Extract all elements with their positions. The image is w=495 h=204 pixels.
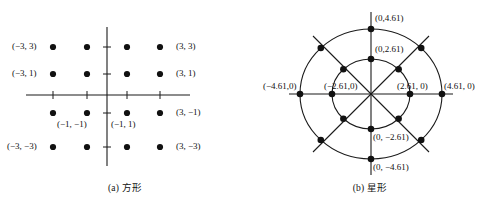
point-label-0-neg2p61: (0, −2.61) — [373, 133, 409, 142]
constellation-point — [124, 71, 130, 77]
constellation-point — [124, 110, 130, 116]
point-label-neg1-neg1: (−1, −1) — [57, 120, 87, 129]
constellation-point — [50, 110, 56, 116]
point-label-neg3-neg3: (−3, −3) — [7, 142, 37, 151]
constellation-point — [340, 66, 347, 73]
constellation-point — [124, 144, 130, 150]
constellation-point — [157, 144, 163, 150]
constellation-point — [418, 137, 425, 144]
constellation-point — [329, 91, 336, 98]
constellation-point — [50, 44, 56, 50]
constellation-point — [340, 115, 347, 122]
constellation-point — [84, 144, 90, 150]
constellation-point — [439, 91, 446, 98]
point-label-3-neg3: (3, −3) — [176, 142, 201, 151]
constellation-point — [318, 137, 325, 144]
point-label-neg3-1: (−3, 1) — [12, 69, 37, 78]
constellation-point — [395, 115, 402, 122]
constellation-point — [124, 44, 130, 50]
panel-square-caption: (a) 方形 — [0, 180, 250, 194]
point-label-4p61-0: (4.61, 0) — [444, 82, 475, 91]
constellation-point — [84, 71, 90, 77]
square-constellation-plot — [0, 0, 250, 175]
point-label-2p61-0: (2.61, 0) — [397, 82, 428, 91]
point-label-3-1: (3, 1) — [176, 69, 196, 78]
panel-square-constellation: (−3, 3) (3, 3) (−3, 1) (3, 1) (3, −1) (−… — [0, 0, 250, 204]
constellation-point — [50, 71, 56, 77]
panel-star-caption: (b) 星形 — [245, 180, 495, 194]
point-label-neg1-1: (−1, 1) — [111, 120, 136, 129]
constellation-point — [407, 91, 414, 98]
point-label-3-3: (3, 3) — [176, 42, 196, 51]
constellation-point — [418, 45, 425, 52]
point-label-neg3-3: (−3, 3) — [12, 42, 37, 51]
constellation-point — [84, 44, 90, 50]
constellation-point — [157, 71, 163, 77]
constellation-point — [395, 66, 402, 73]
point-label-neg4p61-0: (−4.61,0) — [263, 82, 297, 91]
figure-root: (−3, 3) (3, 3) (−3, 1) (3, 1) (3, −1) (−… — [0, 0, 495, 204]
point-label-3-neg1: (3, −1) — [176, 108, 201, 117]
constellation-point — [50, 144, 56, 150]
constellation-point — [368, 56, 375, 63]
point-label-neg2p61-0: (−2.61,0) — [324, 82, 358, 91]
panel-star-constellation: (0,4.61) (0,2.61) (−4.61,0) (−2.61,0) (2… — [245, 0, 495, 204]
constellation-point — [84, 110, 90, 116]
constellation-point — [157, 110, 163, 116]
constellation-point — [157, 44, 163, 50]
constellation-point — [318, 45, 325, 52]
constellation-point — [297, 91, 304, 98]
point-label-0-4p61: (0,4.61) — [375, 14, 404, 23]
point-label-0-2p61: (0,2.61) — [375, 45, 404, 54]
point-label-0-neg4p61: (0, −4.61) — [373, 163, 409, 172]
constellation-point — [368, 26, 375, 33]
